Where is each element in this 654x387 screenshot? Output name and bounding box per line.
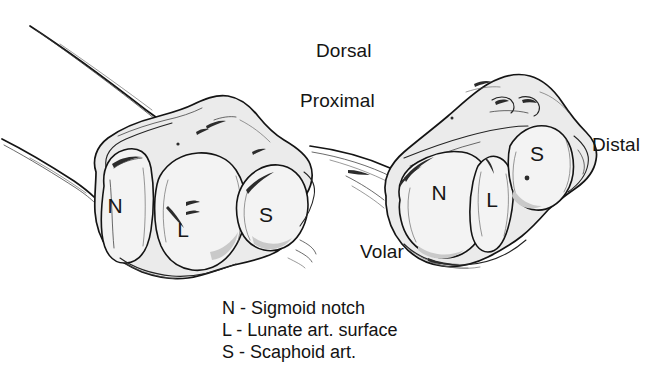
- legend-line-l: L - Lunate art. surface: [222, 319, 397, 341]
- legend: N - Sigmoid notch L - Lunate art. surfac…: [222, 297, 397, 363]
- orientation-label-volar: Volar: [360, 241, 404, 263]
- legend-line-n: N - Sigmoid notch: [222, 297, 397, 319]
- anatomy-figure: .outline { fill: none; stroke: #141414; …: [0, 0, 654, 387]
- left-letter-S: S: [259, 203, 273, 226]
- orientation-label-dorsal: Dorsal: [316, 40, 372, 62]
- left-volar-shaft-lines: [2, 139, 95, 203]
- legend-line-s: S - Scaphoid art.: [222, 341, 397, 363]
- orientation-label-proximal: Proximal: [300, 90, 375, 112]
- left-letter-N: N: [107, 194, 122, 217]
- orientation-label-distal: Distal: [592, 134, 640, 156]
- right-letter-N: N: [431, 181, 446, 204]
- left-letter-L: L: [177, 218, 189, 241]
- left-view-bone: [2, 26, 316, 279]
- right-letter-L: L: [486, 188, 498, 211]
- right-letter-S: S: [530, 142, 544, 165]
